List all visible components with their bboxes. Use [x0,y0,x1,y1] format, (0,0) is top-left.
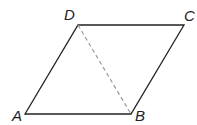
vertex-label-c: C [184,8,195,23]
diagonal-db-dashed [78,25,131,114]
vertex-label-d: D [64,7,75,22]
vertex-label-b: B [135,108,145,123]
vertex-label-a: A [12,108,22,123]
parallelogram-figure [0,0,197,125]
